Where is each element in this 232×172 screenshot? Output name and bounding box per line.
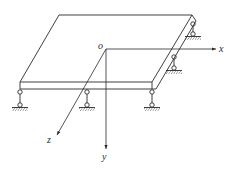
support-front-left — [12, 90, 28, 111]
diagram-canvas — [0, 0, 232, 172]
plate-diagram: o x y z — [0, 0, 232, 172]
x-axis-label: x — [219, 44, 223, 54]
support-front-right — [144, 90, 160, 111]
axes — [57, 49, 216, 149]
z-axis-arrow — [57, 49, 106, 135]
y-axis-label: y — [102, 152, 106, 162]
plate — [20, 15, 196, 89]
z-axis-label: z — [47, 135, 51, 145]
origin-label: o — [98, 41, 103, 51]
support-right-back — [185, 22, 201, 40]
plate-side-face — [156, 21, 196, 89]
